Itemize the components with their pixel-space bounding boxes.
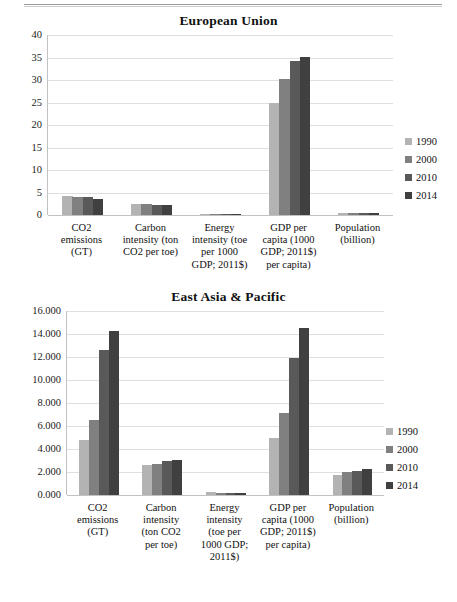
bar — [300, 57, 310, 215]
gridline — [48, 125, 393, 126]
x-axis-label-line: GDP; 2011$) — [252, 526, 323, 538]
x-axis-label-line: Energy — [180, 222, 259, 234]
x-axis-label-line: 2011$) — [189, 551, 260, 563]
x-axis-label-line: emissions — [62, 514, 133, 526]
legend-item-label: 1990 — [397, 426, 418, 437]
bar — [141, 204, 151, 215]
bar — [131, 204, 141, 215]
x-axis-label-line: Population — [316, 502, 387, 514]
bar — [338, 213, 348, 215]
y-axis-tick-label: 20 — [0, 120, 42, 130]
bar — [231, 214, 241, 215]
y-axis-tick-label: 0 — [0, 210, 42, 220]
legend-swatch-icon — [405, 192, 412, 199]
x-axis-category-label: CO2emissions(GT) — [42, 222, 121, 259]
gridline — [67, 495, 384, 496]
x-axis-label-line: CO2 per toe) — [111, 246, 190, 258]
bar — [200, 214, 210, 215]
bar — [62, 196, 72, 215]
y-axis-tick-label: 12.000 — [0, 352, 61, 362]
legend-item-2014[interactable]: 2014 — [386, 479, 418, 491]
legend-item-2010[interactable]: 2010 — [386, 461, 418, 473]
legend-item-1990[interactable]: 1990 — [386, 425, 418, 437]
legend-item-2014[interactable]: 2014 — [405, 189, 437, 201]
x-axis-label-line: per capita) — [252, 539, 323, 551]
y-axis-tick-label: 2.000 — [0, 467, 61, 477]
x-axis-label-line: (GT) — [62, 526, 133, 538]
x-axis-label-line: GDP; 2011$) — [180, 259, 259, 271]
bar — [269, 438, 279, 495]
x-axis-label-line: intensity — [189, 514, 260, 526]
gridline — [48, 58, 393, 59]
x-axis-label-line: Carbon — [111, 222, 190, 234]
y-axis-tick-label: 4.000 — [0, 444, 61, 454]
bar — [162, 205, 172, 215]
chart-east-asia-pacific: East Asia & Pacific 0.0002.0004.0006.000… — [0, 286, 457, 596]
x-axis-category-label: CO2emissions(GT) — [62, 502, 133, 539]
bar — [333, 475, 343, 495]
x-axis-category-label: Carbonintensity (tonCO2 per toe) — [111, 222, 190, 259]
legend-swatch-icon — [386, 464, 393, 471]
y-axis-tick-label: 0.000 — [0, 490, 61, 500]
chart-title-european-union: European Union — [0, 10, 457, 29]
document-page: European Union 0510152025303540CO2emissi… — [0, 0, 457, 602]
x-axis-label-line: per 1000 — [180, 246, 259, 258]
bar — [142, 465, 152, 495]
bar — [152, 205, 162, 215]
plot-frame — [66, 311, 384, 495]
x-axis-label-line: capita (1000 — [249, 234, 328, 246]
x-axis-label-line: CO2 — [62, 502, 133, 514]
bar — [99, 350, 109, 495]
legend-item-label: 2000 — [397, 444, 418, 455]
bar — [226, 493, 236, 495]
bar — [289, 358, 299, 495]
y-axis-tick-label: 8.000 — [0, 398, 61, 408]
legend-swatch-icon — [386, 482, 393, 489]
y-axis-tick-label: 25 — [0, 98, 42, 108]
gridline — [48, 148, 393, 149]
legend-item-label: 2014 — [416, 190, 437, 201]
x-axis-label-line: GDP per — [249, 222, 328, 234]
x-axis-label-line: per toe) — [125, 539, 196, 551]
plot-frame — [47, 35, 393, 215]
legend-item-1990[interactable]: 1990 — [405, 135, 437, 147]
x-axis-label-line: Population — [318, 222, 397, 234]
bar — [221, 214, 231, 215]
y-axis-tick-label: 16.000 — [0, 306, 61, 316]
chart-european-union: European Union 0510152025303540CO2emissi… — [0, 10, 457, 295]
bar — [290, 61, 300, 215]
plot-area-european-union: 0510152025303540CO2emissions(GT)Carbonin… — [0, 35, 457, 285]
legend-european-union: 1990200020102014 — [405, 135, 437, 207]
legend-swatch-icon — [386, 446, 393, 453]
x-axis-category-label: Population(billion) — [318, 222, 397, 246]
x-axis-label-line: CO2 — [42, 222, 121, 234]
bar — [83, 197, 93, 215]
bar — [162, 461, 172, 495]
gridline — [48, 215, 393, 216]
y-axis-tick-label: 40 — [0, 30, 42, 40]
legend-swatch-icon — [405, 156, 412, 163]
x-axis-category-label: GDP percapita (1000GDP; 2011$)per capita… — [252, 502, 323, 551]
x-axis-label-line: GDP per — [252, 502, 323, 514]
x-axis-label-line: intensity (toe — [180, 234, 259, 246]
legend-item-2010[interactable]: 2010 — [405, 171, 437, 183]
bar — [352, 471, 362, 495]
x-axis-label-line: 1000 GDP; — [189, 539, 260, 551]
x-axis-label-line: (GT) — [42, 246, 121, 258]
legend-item-2000[interactable]: 2000 — [386, 443, 418, 455]
bar — [93, 199, 103, 215]
legend-east-asia-pacific: 1990200020102014 — [386, 425, 418, 497]
x-axis-category-label: Carbonintensity(ton CO2per toe) — [125, 502, 196, 551]
legend-item-label: 1990 — [416, 136, 437, 147]
x-axis-category-label: Energyintensity(toe per1000 GDP;2011$) — [189, 502, 260, 563]
gridline — [48, 35, 393, 36]
legend-item-2000[interactable]: 2000 — [405, 153, 437, 165]
bar — [210, 214, 220, 215]
bar — [172, 460, 182, 495]
x-axis-label-line: (toe per — [189, 526, 260, 538]
x-axis-label-line: intensity (ton — [111, 234, 190, 246]
x-axis-label-line: (ton CO2 — [125, 526, 196, 538]
bar — [89, 420, 99, 495]
x-axis-label-line: intensity — [125, 514, 196, 526]
x-axis-category-label: GDP percapita (1000GDP; 2011$)per capita… — [249, 222, 328, 271]
